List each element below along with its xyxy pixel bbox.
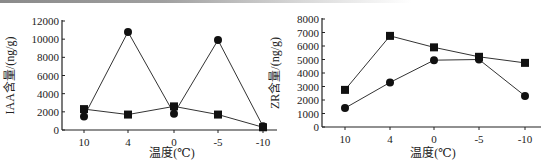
y-tick-label: 0 (54, 124, 60, 136)
square-marker (341, 86, 349, 94)
x-tick-label: 10 (340, 133, 352, 145)
circle-marker (170, 110, 178, 118)
y-tick-label: 10000 (32, 33, 60, 45)
x-tick-label: -10 (518, 133, 533, 145)
x-tick-label: -5 (474, 133, 484, 145)
y-tick-label: 2000 (297, 94, 320, 106)
y-tick-label: 2000 (37, 106, 60, 118)
x-tick-label: 4 (387, 133, 393, 145)
x-tick-label: -10 (256, 136, 271, 148)
circle-marker (386, 78, 394, 86)
y-tick-label: 8000 (37, 51, 60, 63)
x-tick-label: 10 (79, 136, 91, 148)
circle-series (341, 56, 529, 113)
y-tick-label: 7000 (297, 27, 320, 39)
x-tick-label: 4 (125, 136, 131, 148)
square-marker (521, 59, 529, 67)
circle-marker (430, 56, 438, 64)
square-marker (386, 32, 394, 40)
y-tick-label: 6000 (37, 70, 60, 82)
square-marker (259, 123, 267, 131)
y-tick-label: 1000 (297, 108, 320, 120)
x-tick-label: -5 (213, 136, 223, 148)
figure-canvas: 0200040006000800010000120001040-5-10温度(℃… (0, 0, 549, 163)
x-axis-title: 温度(℃) (149, 145, 194, 160)
x-axis-title: 温度(℃) (410, 145, 455, 160)
y-tick-label: 5000 (297, 54, 320, 66)
circle-marker (341, 104, 349, 112)
y-tick-label: 3000 (297, 81, 320, 93)
y-tick-label: 6000 (297, 40, 320, 52)
circle-marker (521, 92, 529, 100)
iaa-chart: 0200040006000800010000120001040-5-10温度(℃… (2, 15, 277, 160)
square-marker (475, 53, 483, 61)
circle-marker (214, 36, 222, 44)
y-tick-label: 4000 (297, 67, 320, 79)
square-marker (80, 105, 88, 113)
circle-marker (80, 112, 88, 120)
circle-series (80, 28, 267, 130)
y-axis-title: IAA含量/(ng/g) (2, 37, 17, 115)
square-marker (430, 43, 438, 51)
y-tick-label: 4000 (37, 88, 60, 100)
square-marker (170, 102, 178, 110)
y-tick-label: 12000 (32, 15, 60, 27)
square-marker (124, 111, 132, 119)
square-marker (214, 111, 222, 119)
circle-marker (124, 28, 132, 36)
x-tick-label: 0 (431, 133, 437, 145)
y-tick-label: 0 (314, 121, 320, 133)
zr-chart: 0100020003000400050006000700080001040-5-… (267, 13, 541, 160)
y-axis-title: ZR含量/(ng/g) (267, 37, 282, 109)
y-tick-label: 8000 (297, 13, 320, 25)
